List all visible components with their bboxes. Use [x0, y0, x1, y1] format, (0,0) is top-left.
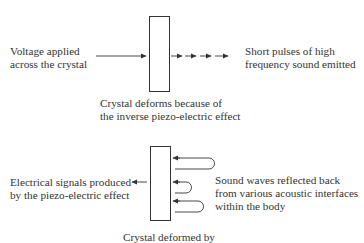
electrical-signals-label: Electrical signals produced by the piezo…: [10, 176, 131, 202]
caption-line: Crystal deformed by: [123, 231, 215, 243]
label-line: Sound waves reflected back: [215, 174, 358, 187]
caption-line: Crystal deforms because of: [100, 97, 240, 110]
label-line: from various acoustic interfaces: [215, 187, 358, 200]
reflected-wave-arrows: [173, 158, 215, 212]
caption-line: the inverse piezo-electric effect: [100, 110, 240, 123]
bottom-crystal: [151, 147, 171, 221]
crystal-deformed-caption: Crystal deformed by: [123, 231, 215, 243]
sound-waves-reflected-label: Sound waves reflected back from various …: [215, 174, 358, 213]
voltage-applied-label: Voltage applied across the crystal: [10, 45, 87, 71]
inverse-piezo-caption: Crystal deforms because of the inverse p…: [100, 97, 240, 123]
label-line: by the piezo-electric effect: [10, 189, 131, 202]
label-line: Short pulses of high: [245, 45, 356, 58]
label-line: across the crystal: [10, 58, 87, 71]
sound-pulses-label: Short pulses of high frequency sound emi…: [245, 45, 356, 71]
label-line: frequency sound emitted: [245, 58, 356, 71]
top-crystal: [150, 17, 170, 92]
label-line: Voltage applied: [10, 45, 87, 58]
label-line: Electrical signals produced: [10, 176, 131, 189]
label-line: within the body: [215, 200, 358, 213]
piezo-electric-diagram: Voltage applied across the crystal Short…: [0, 0, 364, 243]
